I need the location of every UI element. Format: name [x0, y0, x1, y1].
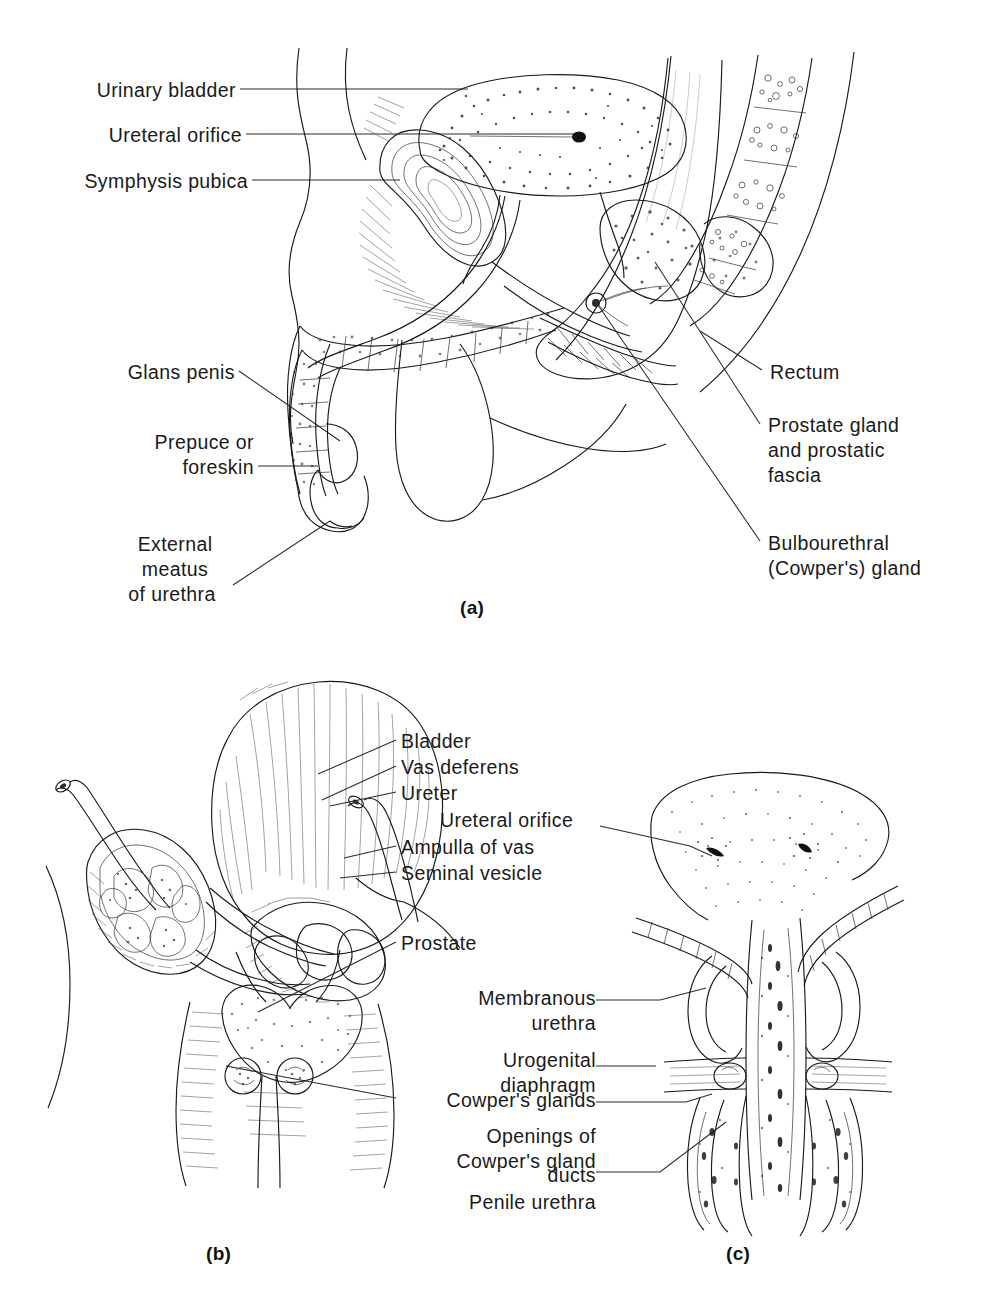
caption-c: (c) — [726, 1243, 750, 1265]
pubic-hatching — [359, 97, 534, 329]
caption-b: (b) — [206, 1243, 231, 1265]
bladder-base-c — [652, 772, 889, 880]
perineal-hatching — [540, 318, 678, 385]
leader-vas-deferens — [322, 766, 396, 800]
label-ureteral-orifice: Ureteral orifice — [0, 123, 242, 148]
label-seminal-vesicle: Seminal vesicle — [401, 861, 542, 886]
prostate-stipple — [613, 210, 694, 289]
bladder-stipple — [439, 87, 672, 190]
prepuce-outline — [318, 424, 358, 483]
label-glans-penis: Glans penis — [0, 360, 235, 385]
urogenital-diaphragm-c — [664, 1058, 892, 1092]
label-prepuce-line2: foreskin — [0, 455, 254, 480]
label-rectum: Rectum — [770, 360, 840, 385]
label-bulbourethral-line1: Bulbourethral — [768, 531, 889, 556]
label-external-line3: of urethra — [104, 582, 240, 607]
cowpers-glands-b — [225, 1058, 313, 1094]
prostate-gland-outline — [600, 200, 705, 301]
label-urinary-bladder: Urinary bladder — [0, 78, 236, 103]
ureteral-orifices-c — [697, 833, 819, 861]
label-membranous-line1: Membranous — [360, 986, 596, 1011]
label-penile-urethra: Penile urethra — [360, 1190, 596, 1215]
caption-a: (a) — [460, 597, 484, 619]
label-symphysis-pubica: Symphysis pubica — [0, 169, 248, 194]
prostate-lobes-c — [688, 952, 860, 1063]
bladder-outline — [212, 681, 443, 954]
label-external-line2: meatus — [110, 557, 240, 582]
bladder-base-stipple — [671, 789, 867, 911]
label-bladder: Bladder — [401, 729, 471, 754]
leader-ampulla — [344, 846, 396, 858]
label-membranous-line2: urethra — [360, 1011, 596, 1036]
label-prostate-gland-line2: and prostatic — [768, 438, 885, 463]
label-bulbourethral-line2: (Cowper's) gland — [768, 556, 921, 581]
label-vas-deferens: Vas deferens — [401, 755, 519, 780]
prostatic-urethra-c — [746, 918, 806, 1200]
label-cowpers-glands: Cowper's glands — [360, 1088, 596, 1113]
leader-ureteral-orifice-c — [600, 826, 712, 856]
label-ureteral-orifice-c: Ureteral orifice — [440, 808, 573, 833]
label-prepuce-line1: Prepuce or — [0, 430, 254, 455]
leader-openings-cowpers — [596, 1094, 712, 1102]
bladder-striations — [220, 682, 429, 902]
label-ampulla-of-vas: Ampulla of vas — [401, 835, 535, 860]
vertebrae — [650, 55, 812, 326]
panel-c-illustration — [596, 772, 904, 1236]
panel-a-illustration — [233, 48, 854, 585]
label-urogenital-line1: Urogenital — [360, 1048, 596, 1073]
penis-shaft — [288, 308, 565, 496]
label-openings-line3: ducts — [360, 1163, 596, 1188]
leader-penile-urethra — [596, 1122, 726, 1172]
corpus-spongiosum-c — [688, 1096, 863, 1236]
label-prostate-gland-line1: Prostate gland — [768, 413, 899, 438]
vas-bands-c — [632, 886, 904, 998]
leader-bulbourethral — [598, 305, 760, 541]
label-prostate-gland-line3: fascia — [768, 463, 821, 488]
leader-seminal-vesicle — [340, 872, 396, 878]
leader-bladder — [318, 740, 396, 774]
label-prostate: Prostate — [401, 931, 477, 956]
symphysis-pubica-outline — [380, 130, 506, 266]
leader-external-meatus — [233, 521, 330, 585]
label-openings-line1: Openings of — [360, 1124, 596, 1149]
prostate-stipple-b — [231, 997, 351, 1071]
vas-deferens — [190, 888, 334, 995]
label-external-line1: External — [110, 532, 240, 557]
seminal-vesicle-left — [87, 829, 217, 974]
ureteral-orifice-marker — [572, 132, 586, 143]
label-ureter: Ureter — [401, 781, 458, 806]
